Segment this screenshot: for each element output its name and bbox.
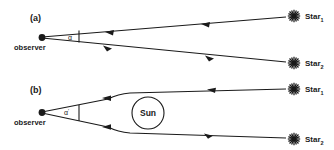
panel-a-star1-label: Star1: [305, 12, 324, 23]
panel-b-star1-label: Star1: [305, 85, 324, 96]
light-deflection-figure: (a) α observer Star1: [0, 0, 334, 150]
panel-a-angle-label: α: [68, 34, 72, 41]
panel-b-star2-glyph: [288, 133, 300, 145]
arrowhead-icon: [205, 56, 214, 62]
panel-a-observer-dot: [39, 34, 46, 41]
figure-canvas: (a) α observer Star1: [0, 0, 334, 150]
panel-a-label: (a): [30, 13, 41, 23]
arrowhead-icon: [102, 124, 111, 130]
panel-a-star2-glyph: [288, 57, 300, 69]
panel-b-observer-dot: [39, 109, 46, 116]
arrowhead-icon: [204, 134, 213, 139]
panel-b-angle-label: α′: [64, 108, 69, 117]
panel-b-star2-label: Star2: [305, 135, 324, 146]
panel-a-observer-label: observer: [14, 43, 46, 52]
panel-a: (a) α observer Star1: [14, 10, 324, 70]
arrowhead-icon: [201, 22, 210, 28]
arrowhead-icon: [105, 30, 114, 36]
panel-a-star2-label: Star2: [305, 59, 324, 70]
arrowhead-icon: [103, 46, 112, 52]
panel-b-label: (b): [30, 85, 42, 95]
panel-b-star1-glyph: [288, 83, 300, 95]
panel-b: (b) α′ observer Sun Star1: [14, 83, 324, 146]
panel-b-observer-label: observer: [14, 118, 46, 127]
panel-a-star1-glyph: [288, 10, 300, 22]
sun-label: Sun: [140, 108, 156, 118]
arrowhead-icon: [207, 88, 216, 93]
